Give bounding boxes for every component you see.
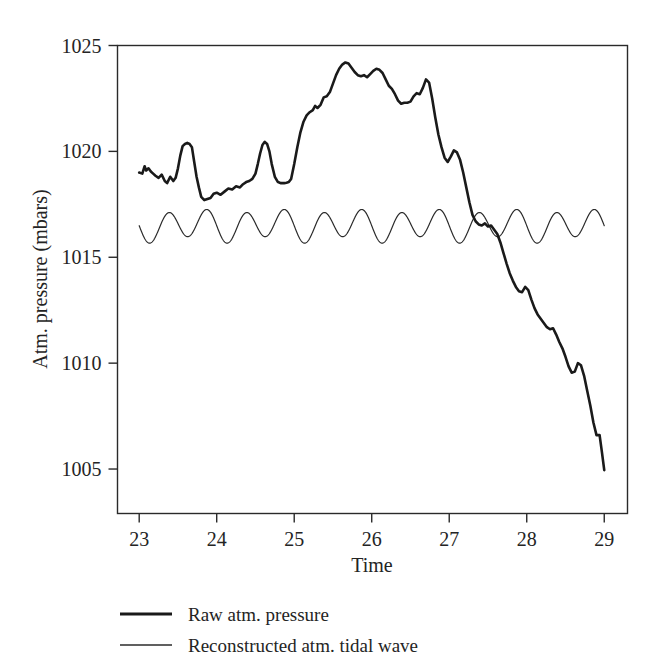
y-axis-tick-label: 1015 xyxy=(62,246,102,268)
legend-label-reconstructed-tidal-wave: Reconstructed atm. tidal wave xyxy=(188,635,418,656)
x-axis-tick-label: 26 xyxy=(362,528,382,550)
atmospheric-pressure-line-chart: 10051010101510201025 23242526272829 Time… xyxy=(0,0,663,668)
legend-label-raw-atm-pressure: Raw atm. pressure xyxy=(188,604,329,625)
x-axis-tick-label: 25 xyxy=(284,528,304,550)
x-axis-tick-label: 24 xyxy=(207,528,227,550)
x-axis-tick-label: 27 xyxy=(439,528,459,550)
x-axis-tick-label: 28 xyxy=(517,528,537,550)
x-axis-tick-label: 29 xyxy=(594,528,614,550)
y-axis-title: Atm. pressure (mbars) xyxy=(29,189,52,368)
y-axis-tick-label: 1005 xyxy=(62,458,102,480)
chart-background xyxy=(0,0,663,668)
x-axis-title: Time xyxy=(351,554,393,576)
chart-figure: 10051010101510201025 23242526272829 Time… xyxy=(0,0,663,668)
y-axis-tick-label: 1010 xyxy=(62,352,102,374)
x-axis-tick-label: 23 xyxy=(129,528,149,550)
y-axis-tick-label: 1020 xyxy=(62,140,102,162)
y-axis-tick-label: 1025 xyxy=(62,35,102,57)
